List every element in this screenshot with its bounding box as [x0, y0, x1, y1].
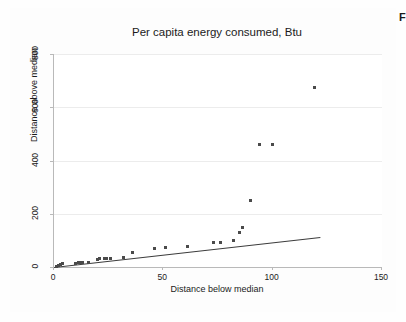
data-point: [238, 231, 241, 234]
x-axis-tick-label-100: 100: [257, 272, 287, 282]
data-point: [258, 143, 261, 146]
x-axis-tick-mark-100: [272, 267, 273, 270]
data-point: [105, 257, 108, 260]
reference-line: [54, 237, 321, 268]
gridline-y-400: [54, 161, 382, 162]
y-axis-tick-mark-400: [50, 161, 53, 162]
data-point: [153, 247, 156, 250]
data-point: [313, 86, 316, 89]
data-point: [164, 246, 167, 249]
x-axis-tick-mark-150: [381, 267, 382, 270]
gridline-y-800: [54, 54, 382, 55]
data-point: [212, 241, 215, 244]
plot-area: [53, 54, 382, 268]
data-point: [241, 226, 244, 229]
data-point: [122, 256, 125, 259]
data-point: [249, 199, 252, 202]
gridline-y-600: [54, 107, 382, 108]
data-point: [131, 251, 134, 254]
y-axis-tick-mark-600: [50, 107, 53, 108]
data-point: [81, 261, 84, 264]
y-axis-title: Distance above median: [29, 25, 39, 165]
gridline-y-200: [54, 214, 382, 215]
y-axis-tick-mark-200: [50, 214, 53, 215]
x-axis-tick-mark-0: [53, 267, 54, 270]
y-axis-tick-label-200: 200: [30, 200, 40, 226]
chart-title: Per capita energy consumed, Btu: [53, 26, 381, 38]
x-axis-tick-label-150: 150: [366, 272, 396, 282]
data-point: [186, 245, 189, 248]
chart-page: F Per capita energy consumed, Btu 020040…: [0, 0, 406, 322]
data-point: [87, 261, 90, 264]
data-point: [61, 262, 64, 265]
x-axis-title: Distance below median: [53, 284, 381, 294]
x-axis-tick-mark-50: [162, 267, 163, 270]
data-point: [109, 257, 112, 260]
page-corner-text-fragment: F: [399, 11, 406, 23]
x-axis-tick-label-50: 50: [147, 272, 177, 282]
data-point: [232, 239, 235, 242]
data-point: [98, 257, 101, 260]
y-axis-tick-mark-800: [50, 54, 53, 55]
data-point: [271, 143, 274, 146]
x-axis-tick-label-0: 0: [38, 272, 68, 282]
data-point: [219, 241, 222, 244]
plot-inner: [54, 54, 382, 267]
